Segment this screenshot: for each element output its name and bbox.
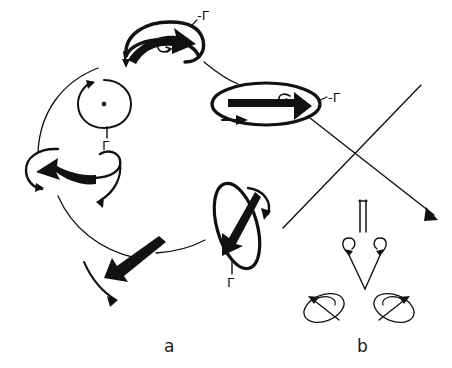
top-ring-circulation-label: -Γ — [197, 8, 210, 23]
left-diverging-arrowhead — [344, 249, 353, 256]
left-diverging-arrow-shaft — [348, 253, 365, 289]
connector-upper-left — [38, 68, 98, 152]
circle-center-dot — [102, 102, 107, 107]
right-diverging-arrowhead — [376, 249, 385, 256]
figure-canvas: -Γ Γ — [0, 0, 452, 368]
top-ring-tail-arrowhead — [122, 59, 130, 68]
left-vortex-thick-arrow — [36, 158, 96, 184]
panel-label-b: b — [357, 336, 368, 356]
left-vortex-lower-hook — [92, 152, 120, 178]
panel-b-group — [300, 200, 419, 328]
diagonal-arrow-down-right — [310, 118, 434, 215]
right-ring-label-leader — [320, 97, 327, 100]
parallel-lines-symbol — [359, 200, 367, 232]
left-vortex — [26, 149, 120, 208]
panel-label-a: a — [164, 336, 175, 356]
connector-lower-left — [58, 196, 136, 258]
right-small-ellipse — [370, 288, 419, 328]
right-ring-circulation-label: -Γ — [328, 90, 341, 105]
diagram-svg: -Γ Γ — [0, 0, 452, 368]
right-diverging-arrow — [365, 238, 386, 289]
right-diverging-arrow-shaft — [365, 253, 381, 289]
bottom-vortex-thick-arrow — [104, 236, 166, 282]
diagonal-arrow-down-right-head — [424, 207, 438, 221]
lower-right-ring-circulation-label: Γ — [227, 275, 235, 290]
circle-with-dot: Γ — [78, 80, 131, 153]
circle-arc-arrowhead — [86, 80, 95, 89]
bottom-vortex — [84, 236, 166, 307]
left-vortex-curl-arrowhead — [35, 183, 44, 192]
right-ring-thick-arrow — [228, 92, 312, 120]
left-diverging-arrow — [343, 238, 365, 289]
cycle-connectors — [38, 62, 238, 258]
left-small-ellipse — [300, 288, 349, 328]
connector-upper-right — [204, 62, 238, 84]
lower-right-vortex-ring: Γ — [206, 178, 271, 290]
right-vortex-ring: -Γ — [212, 83, 341, 125]
top-vortex-ring: -Γ — [122, 8, 210, 68]
lower-right-ring-thick-arrow — [222, 192, 261, 256]
